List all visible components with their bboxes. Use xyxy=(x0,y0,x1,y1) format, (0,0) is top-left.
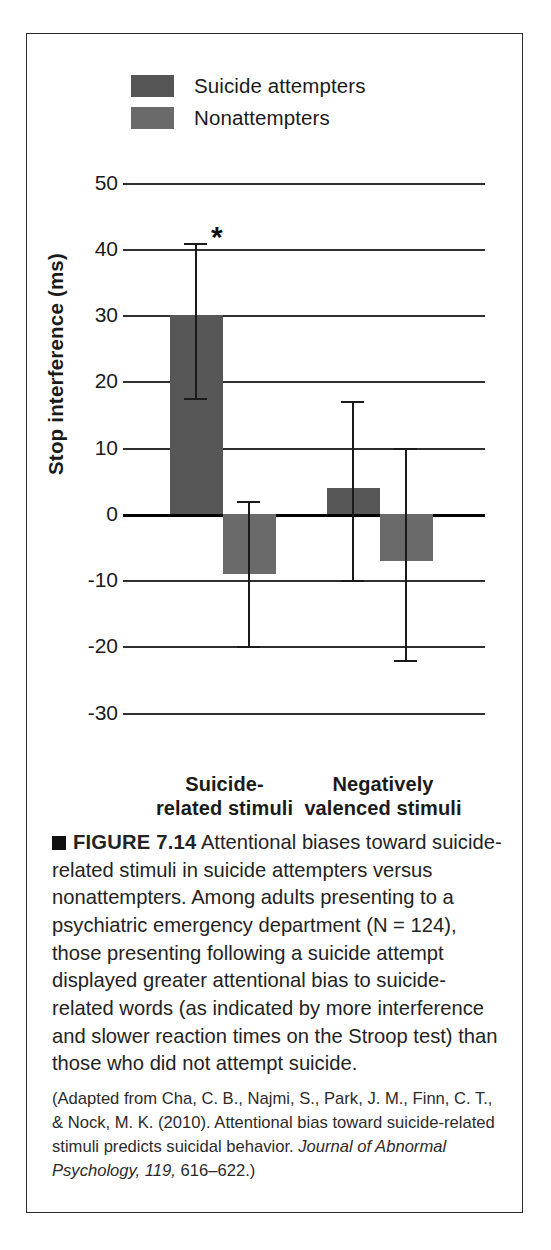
y-tick-label-40: 40 xyxy=(48,237,118,261)
y-tick-label-10: 10 xyxy=(48,436,118,460)
y-tick-label-minus-10: -10 xyxy=(48,568,118,592)
gridline-40 xyxy=(123,249,485,251)
gridline-50 xyxy=(123,183,485,185)
errorbar-cap-top-suicide-attempters-negatively-valenced xyxy=(341,401,364,403)
figure-number-label: FIGURE 7.14 xyxy=(73,831,196,853)
caption-bullet-square-icon xyxy=(52,836,66,850)
y-tick-label-minus-30: -30 xyxy=(48,701,118,725)
gridline-minus-30 xyxy=(123,713,485,715)
errorbar-cap-top-nonattempters-negatively-valenced xyxy=(394,448,417,450)
errorbar-cap-top-suicide-attempters-suicide-related xyxy=(184,243,207,245)
errorbar-line-suicide-attempters-negatively-valenced xyxy=(352,401,354,580)
errorbar-cap-bottom-nonattempters-negatively-valenced xyxy=(394,660,417,662)
figure-caption-text: Attentional biases toward suicide-relate… xyxy=(52,831,502,1074)
caption-source-post: 616–622.) xyxy=(176,1161,255,1180)
y-tick-label-minus-20: -20 xyxy=(48,634,118,658)
errorbar-cap-bottom-suicide-attempters-suicide-related xyxy=(184,398,207,400)
errorbar-line-nonattempters-negatively-valenced xyxy=(405,448,407,660)
figure-caption: FIGURE 7.14 Attentional biases toward su… xyxy=(52,829,502,1183)
errorbar-cap-top-nonattempters-suicide-related xyxy=(237,501,260,503)
grid-lines xyxy=(27,34,523,794)
x-category-label-negatively-valenced-line1: Negatively xyxy=(332,773,433,795)
x-category-label-suicide-related: Suicide- related stimuli xyxy=(137,772,312,821)
significance-star-annotation: * xyxy=(211,222,223,252)
gridline-minus-10 xyxy=(123,580,485,582)
figure-card: Suicide attempters Nonattempters Stop in… xyxy=(26,33,523,1213)
figure-caption-main: FIGURE 7.14 Attentional biases toward su… xyxy=(52,829,502,1078)
x-category-label-negatively-valenced-line2: valenced stimuli xyxy=(304,797,461,819)
gridline-minus-20 xyxy=(123,646,485,648)
y-tick-label-0: 0 xyxy=(48,502,118,526)
figure-caption-source: (Adapted from Cha, C. B., Najmi, S., Par… xyxy=(52,1087,502,1183)
y-tick-label-50: 50 xyxy=(48,171,118,195)
plot-area: Stop interference (ms) 50 40 30 20 10 0 … xyxy=(27,34,523,794)
y-tick-label-20: 20 xyxy=(48,369,118,393)
x-category-label-suicide-related-line1: Suicide- xyxy=(185,773,264,795)
errorbar-cap-bottom-nonattempters-suicide-related xyxy=(237,646,260,648)
errorbar-cap-bottom-suicide-attempters-negatively-valenced xyxy=(341,580,364,582)
errorbar-line-suicide-attempters-suicide-related xyxy=(195,243,197,398)
errorbar-line-nonattempters-suicide-related xyxy=(248,501,250,646)
x-category-label-suicide-related-line2: related stimuli xyxy=(156,797,293,819)
x-category-label-negatively-valenced: Negatively valenced stimuli xyxy=(293,772,473,821)
y-tick-label-30: 30 xyxy=(48,303,118,327)
